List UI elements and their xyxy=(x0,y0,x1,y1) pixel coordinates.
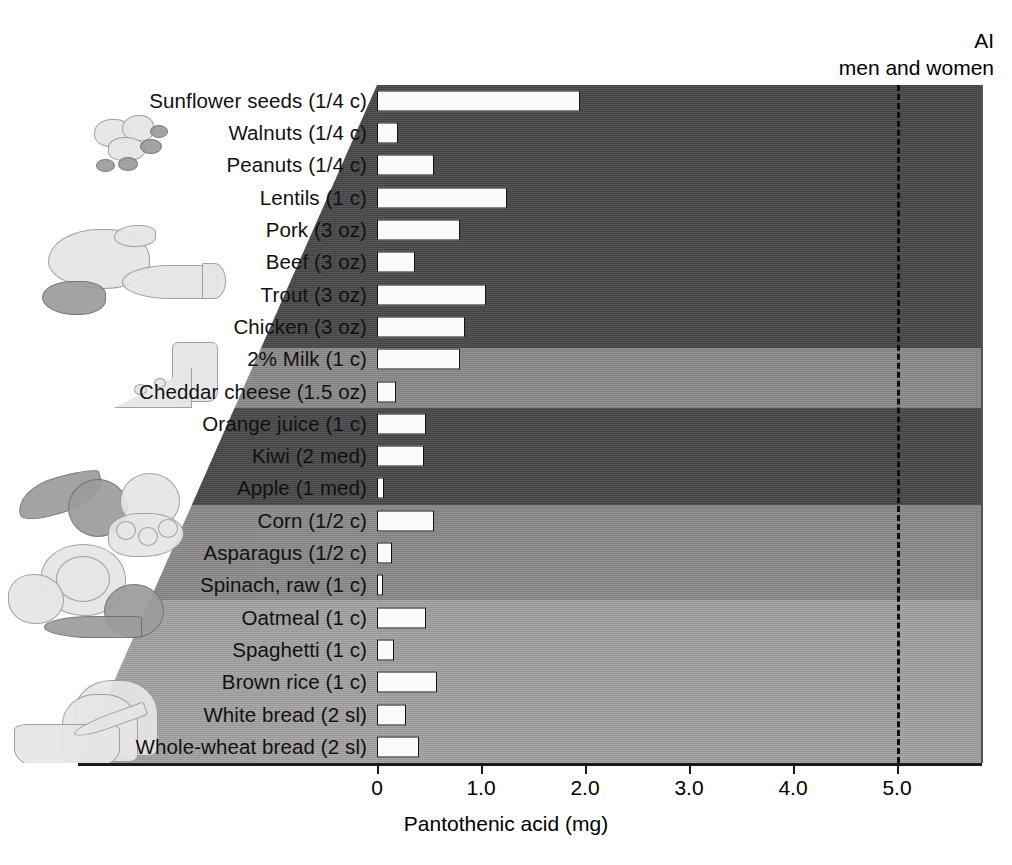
chart-row: Cheddar cheese (1.5 oz) xyxy=(0,376,1012,408)
value-bar xyxy=(377,155,434,176)
value-bar xyxy=(377,704,406,725)
value-bar xyxy=(377,187,507,208)
chart-row: Trout (3 oz) xyxy=(0,279,1012,311)
value-bar xyxy=(377,284,486,305)
chart-row: Lentils (1 c) xyxy=(0,182,1012,214)
row-label: White bread (2 sl) xyxy=(203,703,367,727)
axis-tick xyxy=(585,763,587,774)
row-label: Kiwi (2 med) xyxy=(252,444,367,468)
row-label: Beef (3 oz) xyxy=(266,250,367,274)
axis-tick-label: 2.0 xyxy=(570,776,599,800)
chart-row: Apple (1 med) xyxy=(0,473,1012,505)
chart-row: Brown rice (1 c) xyxy=(0,666,1012,698)
row-label: Sunflower seeds (1/4 c) xyxy=(149,89,367,113)
x-axis-title: Pantothenic acid (mg) xyxy=(0,812,1012,836)
value-bar xyxy=(377,575,383,596)
axis-tick-label: 0 xyxy=(371,776,383,800)
row-label: Spinach, raw (1 c) xyxy=(200,573,367,597)
axis-tick-label: 5.0 xyxy=(882,776,911,800)
chart-row: Chicken (3 oz) xyxy=(0,311,1012,343)
chart-row: Oatmeal (1 c) xyxy=(0,602,1012,634)
chart-row: Sunflower seeds (1/4 c) xyxy=(0,85,1012,117)
ai-reference-annotation: AI men and women xyxy=(839,28,994,82)
row-label: Pork (3 oz) xyxy=(266,218,367,242)
chart-row: Spinach, raw (1 c) xyxy=(0,570,1012,602)
pantothenic-acid-bar-chart: AI men and women xyxy=(0,0,1012,865)
ai-label-line1: AI xyxy=(839,28,994,55)
chart-row: Peanuts (1/4 c) xyxy=(0,150,1012,182)
value-bar xyxy=(377,123,398,144)
chart-row: 2% Milk (1 c) xyxy=(0,343,1012,375)
row-label: Cheddar cheese (1.5 oz) xyxy=(139,380,367,404)
axis-tick xyxy=(793,763,795,774)
chart-row: Kiwi (2 med) xyxy=(0,440,1012,472)
chart-row: Corn (1/2 c) xyxy=(0,505,1012,537)
chart-row: Whole-wheat bread (2 sl) xyxy=(0,731,1012,763)
axis-tick xyxy=(377,763,379,774)
x-axis-line xyxy=(78,763,982,766)
value-bar xyxy=(377,90,580,111)
value-bar xyxy=(377,672,437,693)
value-bar xyxy=(377,381,396,402)
row-label: Chicken (3 oz) xyxy=(233,315,367,339)
row-label: Apple (1 med) xyxy=(237,476,367,500)
value-bar xyxy=(377,510,434,531)
chart-row: Beef (3 oz) xyxy=(0,247,1012,279)
axis-tick-label: 4.0 xyxy=(778,776,807,800)
row-label: Whole-wheat bread (2 sl) xyxy=(136,735,367,759)
row-label: Spaghetti (1 c) xyxy=(232,638,367,662)
axis-tick xyxy=(481,763,483,774)
ai-reference-line xyxy=(897,85,900,763)
axis-tick xyxy=(897,763,899,774)
value-bar xyxy=(377,252,415,273)
value-bar xyxy=(377,478,384,499)
row-label: Corn (1/2 c) xyxy=(258,509,367,533)
value-bar xyxy=(377,413,426,434)
row-label: 2% Milk (1 c) xyxy=(247,347,367,371)
axis-tick xyxy=(689,763,691,774)
chart-row: Walnuts (1/4 c) xyxy=(0,117,1012,149)
axis-tick-label: 1.0 xyxy=(466,776,495,800)
row-label: Brown rice (1 c) xyxy=(222,670,367,694)
chart-row: White bread (2 sl) xyxy=(0,699,1012,731)
axis-tick-label: 3.0 xyxy=(674,776,703,800)
chart-row: Orange juice (1 c) xyxy=(0,408,1012,440)
row-label: Walnuts (1/4 c) xyxy=(228,121,367,145)
value-bar xyxy=(377,543,392,564)
row-label: Trout (3 oz) xyxy=(261,283,367,307)
value-bar xyxy=(377,736,419,757)
value-bar xyxy=(377,349,460,370)
row-label: Peanuts (1/4 c) xyxy=(226,153,367,177)
chart-row: Pork (3 oz) xyxy=(0,214,1012,246)
value-bar xyxy=(377,607,426,628)
row-label: Lentils (1 c) xyxy=(260,186,367,210)
value-bar xyxy=(377,316,465,337)
row-label: Oatmeal (1 c) xyxy=(242,606,367,630)
value-bar xyxy=(377,446,424,467)
ai-label-line2: men and women xyxy=(839,55,994,82)
value-bar xyxy=(377,220,460,241)
value-bar xyxy=(377,639,394,660)
plot-right-edge xyxy=(981,85,983,763)
row-label: Asparagus (1/2 c) xyxy=(204,541,368,565)
chart-row: Asparagus (1/2 c) xyxy=(0,537,1012,569)
chart-row: Spaghetti (1 c) xyxy=(0,634,1012,666)
row-label: Orange juice (1 c) xyxy=(202,412,367,436)
